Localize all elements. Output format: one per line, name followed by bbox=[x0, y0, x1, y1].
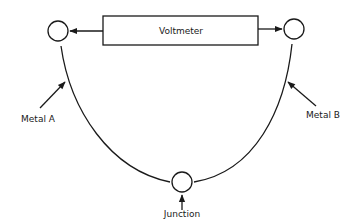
voltmeter-box: Voltmeter bbox=[103, 16, 258, 45]
junction-circle bbox=[172, 172, 192, 192]
thermocouple-diagram: Voltmeter Metal A Metal B Junction bbox=[0, 0, 353, 220]
metal-a-label: Metal A bbox=[21, 114, 56, 124]
metal-a-pointer-arrow bbox=[40, 82, 65, 108]
terminal-b-circle bbox=[284, 19, 304, 39]
junction-label: Junction bbox=[163, 209, 200, 219]
terminal-a-circle bbox=[48, 21, 68, 41]
voltmeter-label: Voltmeter bbox=[159, 26, 203, 36]
metal-a-wire bbox=[61, 46, 170, 182]
metal-b-label: Metal B bbox=[306, 110, 340, 120]
metal-b-wire bbox=[194, 44, 292, 182]
metal-b-pointer-arrow bbox=[288, 82, 316, 106]
